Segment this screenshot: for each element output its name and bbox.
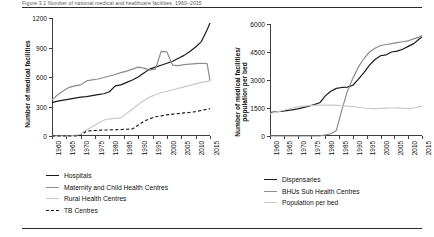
x-tick-label: 1975 bbox=[98, 141, 105, 155]
x-tick bbox=[181, 136, 182, 139]
x-tick-label: 2005 bbox=[397, 141, 404, 155]
y-tick-label: 0 bbox=[43, 133, 47, 140]
legend-item[interactable]: Population per bed bbox=[264, 197, 360, 209]
x-tick-label: 1995 bbox=[155, 141, 162, 155]
y-tick-label: 4500 bbox=[250, 49, 265, 56]
x-tick-label: 1995 bbox=[369, 141, 376, 155]
legend-swatch-icon bbox=[46, 198, 59, 199]
y-tick-label: 300 bbox=[36, 103, 47, 110]
x-tick-label: 1985 bbox=[126, 141, 133, 155]
x-tick bbox=[394, 136, 395, 139]
legend-item[interactable]: TB Centres bbox=[46, 205, 168, 217]
left-y-axis-label: Number of medical facilities bbox=[24, 24, 38, 144]
x-tick-label: 1965 bbox=[69, 141, 76, 155]
x-tick-label: 2015 bbox=[425, 141, 432, 155]
y-tick-label: 900 bbox=[36, 44, 47, 51]
x-tick bbox=[196, 136, 197, 139]
left-plot-area: 03006009001200 1960196519701975198019851… bbox=[52, 18, 210, 136]
x-tick bbox=[325, 136, 326, 139]
y-tick-label: 6000 bbox=[250, 21, 265, 28]
y-tick-label: 1500 bbox=[250, 105, 265, 112]
x-tick bbox=[138, 136, 139, 139]
x-tick bbox=[210, 136, 211, 139]
legend-item[interactable]: Dispensaries bbox=[264, 174, 360, 186]
series-line bbox=[52, 109, 210, 136]
y-tick-label: 3000 bbox=[250, 77, 265, 84]
right-y-axis-label: Number of medical facilities/ population… bbox=[234, 32, 248, 152]
legend-label: Rural Health Centres bbox=[64, 193, 126, 205]
legend-label: Hospitals bbox=[64, 170, 92, 182]
y-tick-label: 600 bbox=[36, 74, 47, 81]
x-tick-label: 1970 bbox=[300, 141, 307, 155]
legend-label: Population per bed bbox=[282, 197, 338, 209]
x-tick-label: 1965 bbox=[286, 141, 293, 155]
x-tick bbox=[109, 136, 110, 139]
bottom-rule bbox=[22, 228, 422, 229]
y-tick-label: 1200 bbox=[32, 15, 47, 22]
right-series-lines bbox=[270, 24, 422, 136]
left-series-lines bbox=[52, 18, 210, 136]
y-tick-label: 0 bbox=[261, 133, 265, 140]
legend-swatch-icon bbox=[264, 191, 277, 192]
legend-label: Maternity and Child Health Centres bbox=[64, 182, 168, 194]
x-tick-label: 1960 bbox=[273, 141, 280, 155]
x-tick bbox=[167, 136, 168, 139]
x-tick-label: 1985 bbox=[342, 141, 349, 155]
x-tick bbox=[153, 136, 154, 139]
legend-label: TB Centres bbox=[64, 205, 98, 217]
x-tick bbox=[124, 136, 125, 139]
legend-item[interactable]: Maternity and Child Health Centres bbox=[46, 182, 168, 194]
x-tick-label: 1980 bbox=[328, 141, 335, 155]
x-tick bbox=[422, 136, 423, 139]
x-tick bbox=[408, 136, 409, 139]
x-tick bbox=[95, 136, 96, 139]
series-line bbox=[52, 81, 210, 136]
top-rule bbox=[22, 7, 422, 8]
x-tick-label: 1990 bbox=[356, 141, 363, 155]
x-tick-label: 1975 bbox=[314, 141, 321, 155]
figure-caption: Figure 3.1 Number of national medical an… bbox=[22, 0, 422, 7]
x-tick-label: 2005 bbox=[184, 141, 191, 155]
x-tick-label: 1970 bbox=[83, 141, 90, 155]
legend-item[interactable]: BHUs Sub Health Centres bbox=[264, 186, 360, 198]
x-tick-label: 2000 bbox=[170, 141, 177, 155]
legend-label: BHUs Sub Health Centres bbox=[282, 186, 360, 198]
x-tick-label: 1980 bbox=[112, 141, 119, 155]
legend-item[interactable]: Hospitals bbox=[46, 170, 168, 182]
right-legend: DispensariesBHUs Sub Health CentresPopul… bbox=[264, 174, 360, 209]
legend-swatch-icon bbox=[46, 187, 59, 188]
x-tick bbox=[353, 136, 354, 139]
x-tick-label: 1960 bbox=[55, 141, 62, 155]
legend-label: Dispensaries bbox=[282, 174, 321, 186]
x-tick-label: 1990 bbox=[141, 141, 148, 155]
x-tick bbox=[367, 136, 368, 139]
x-tick bbox=[381, 136, 382, 139]
legend-swatch-icon bbox=[46, 210, 59, 211]
figure-container: Figure 3.1 Number of national medical an… bbox=[0, 0, 434, 237]
x-tick bbox=[339, 136, 340, 139]
legend-item[interactable]: Rural Health Centres bbox=[46, 193, 168, 205]
legend-swatch-icon bbox=[264, 179, 277, 180]
x-tick-label: 2010 bbox=[198, 141, 205, 155]
left-legend: HospitalsMaternity and Child Health Cent… bbox=[46, 170, 168, 216]
legend-swatch-icon bbox=[264, 202, 277, 203]
x-tick-label: 2015 bbox=[213, 141, 220, 155]
x-tick-label: 2010 bbox=[411, 141, 418, 155]
right-plot-area: 01500300045006000 1960196519701975198019… bbox=[270, 24, 422, 136]
x-tick-label: 2000 bbox=[383, 141, 390, 155]
series-line bbox=[52, 23, 210, 103]
x-tick bbox=[81, 136, 82, 139]
series-line bbox=[270, 37, 422, 113]
legend-swatch-icon bbox=[46, 175, 59, 176]
series-line bbox=[52, 51, 210, 99]
